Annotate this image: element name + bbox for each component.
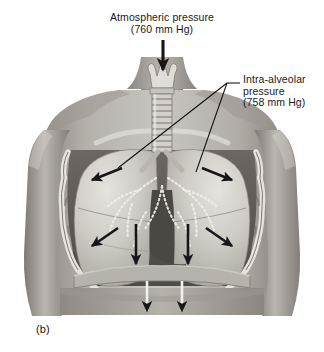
trachea: [152, 94, 172, 152]
figure-panel-b: Atmospheric pressure (760 mm Hg) Intra-a…: [0, 0, 324, 352]
atmospheric-pressure-label: Atmospheric pressure (760 mm Hg): [82, 12, 242, 35]
atmospheric-pressure-line1: Atmospheric pressure: [82, 12, 242, 24]
figure-caption: (b): [36, 324, 50, 336]
intra-alveolar-value: (758 mm Hg): [243, 97, 306, 109]
anatomy-illustration: [0, 0, 324, 352]
cricoid-cartilage: [150, 88, 174, 94]
cardiac-notch: [149, 190, 174, 264]
intra-alveolar-pressure-label: Intra-alveolar pressure (758 mm Hg): [243, 74, 306, 109]
intra-alveolar-line1: Intra-alveolar: [243, 74, 306, 86]
atmospheric-pressure-value: (760 mm Hg): [82, 24, 242, 36]
